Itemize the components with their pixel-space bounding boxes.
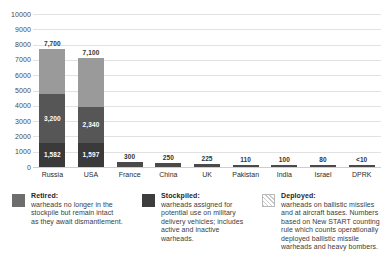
legend-description-line: warheads assigned for xyxy=(161,201,254,210)
legend-description-line: warheads on ballistic missiles xyxy=(281,201,380,210)
deployed-swatch-icon xyxy=(262,194,275,207)
bar-segment-solid xyxy=(194,164,220,167)
bar-column: 3,2001,582 xyxy=(39,49,65,167)
legend-description-line: potential use on military xyxy=(161,209,254,218)
bar-total-label: 225 xyxy=(185,155,229,162)
bar-column xyxy=(233,165,259,167)
legend-description-line: rule which counts operationally xyxy=(281,226,380,235)
retired-swatch-icon xyxy=(12,194,25,207)
y-axis-tick: 8000 xyxy=(0,41,31,48)
bar-column: 2,3401,597 xyxy=(78,58,104,167)
stockpiled-swatch-icon xyxy=(142,194,155,207)
bar-segment-solid xyxy=(117,162,143,167)
legend-title: Stockpiled: xyxy=(161,192,254,201)
bar-total-label: 100 xyxy=(262,156,306,163)
bar-segment-deployed: 1,582 xyxy=(39,143,65,167)
y-axis-tick: 0 xyxy=(0,164,31,171)
bar-segment-solid xyxy=(271,165,297,167)
bar-total-label: 110 xyxy=(224,156,268,163)
legend-title: Retired: xyxy=(31,192,130,201)
bar-segment-solid xyxy=(349,165,375,167)
bar-segment-value-label: 3,200 xyxy=(39,115,65,122)
nuclear-warheads-chart: 1000090008000700060005000400030002000100… xyxy=(0,0,385,279)
x-axis-category-label: DPRK xyxy=(338,171,385,179)
legend-text-block: Retired:warheads no longer in thestockpi… xyxy=(31,192,130,226)
y-axis-tick-labels: 1000090008000700060005000400030002000100… xyxy=(0,14,31,167)
bar-total-label: 7,100 xyxy=(69,49,113,56)
bar-column xyxy=(310,165,336,167)
y-axis-tick: 4000 xyxy=(0,102,31,109)
legend-description-line: warheads. xyxy=(161,235,254,244)
bar-segment-solid xyxy=(155,163,181,167)
bar-column xyxy=(117,162,143,167)
bar-total-label: 250 xyxy=(146,154,190,161)
y-axis-tick: 3000 xyxy=(0,118,31,125)
legend-description-line: warheads no longer in the xyxy=(31,201,130,210)
y-axis-tick: 2000 xyxy=(0,133,31,140)
plot-area: 1000090008000700060005000400030002000100… xyxy=(0,14,385,184)
bar-segment-deployed: 1,597 xyxy=(78,143,104,167)
y-axis-tick: 1000 xyxy=(0,148,31,155)
bar-total-label: <10 xyxy=(340,156,384,163)
y-axis-tick: 6000 xyxy=(0,72,31,79)
legend-description-line: deployed ballistic missile xyxy=(281,235,380,244)
bar-total-label: 300 xyxy=(108,153,152,160)
y-axis-tick: 5000 xyxy=(0,87,31,94)
bar-total-label: 80 xyxy=(301,156,345,163)
bar-series: 3,2001,5827,700Russia2,3401,5977,100USA3… xyxy=(33,14,381,167)
bar-column xyxy=(349,165,375,167)
legend-description-line: as they await dismantlement. xyxy=(31,218,130,227)
legend-text-block: Deployed:warheads on ballistic missilesa… xyxy=(281,192,380,252)
legend-title: Deployed: xyxy=(281,192,380,201)
chart-legend: Retired:warheads no longer in thestockpi… xyxy=(0,192,385,279)
bar-segment-retired xyxy=(39,49,65,94)
legend-text-block: Stockpiled:warheads assigned forpotentia… xyxy=(161,192,254,243)
y-axis-tick: 10000 xyxy=(0,11,31,18)
bar-column xyxy=(194,164,220,167)
bar-segment-stockpiled: 3,200 xyxy=(39,94,65,143)
bar-segment-value-label: 2,340 xyxy=(78,121,104,128)
legend-description-line: delivery vehicles; includes xyxy=(161,218,254,227)
bar-segment-solid xyxy=(233,165,259,167)
bar-segment-value-label: 1,597 xyxy=(78,151,104,158)
bar-segment-solid xyxy=(310,165,336,167)
bar-column xyxy=(155,163,181,167)
legend-description-line: stockpile but remain intact xyxy=(31,209,130,218)
legend-description-line: active and inactive xyxy=(161,226,254,235)
bar-segment-value-label: 1,582 xyxy=(39,151,65,158)
y-axis-tick: 7000 xyxy=(0,56,31,63)
legend-description-line: and at aircraft bases. Numbers xyxy=(281,209,380,218)
gridline xyxy=(33,167,381,168)
legend-description-line: warheads and heavy bombers. xyxy=(281,243,380,252)
bar-total-label: 7,700 xyxy=(30,40,74,47)
bar-segment-stockpiled: 2,340 xyxy=(78,107,104,143)
bar-segment-retired xyxy=(78,58,104,106)
bar-column xyxy=(271,165,297,167)
y-axis-tick: 9000 xyxy=(0,26,31,33)
legend-description-line: based on New START counting xyxy=(281,218,380,227)
